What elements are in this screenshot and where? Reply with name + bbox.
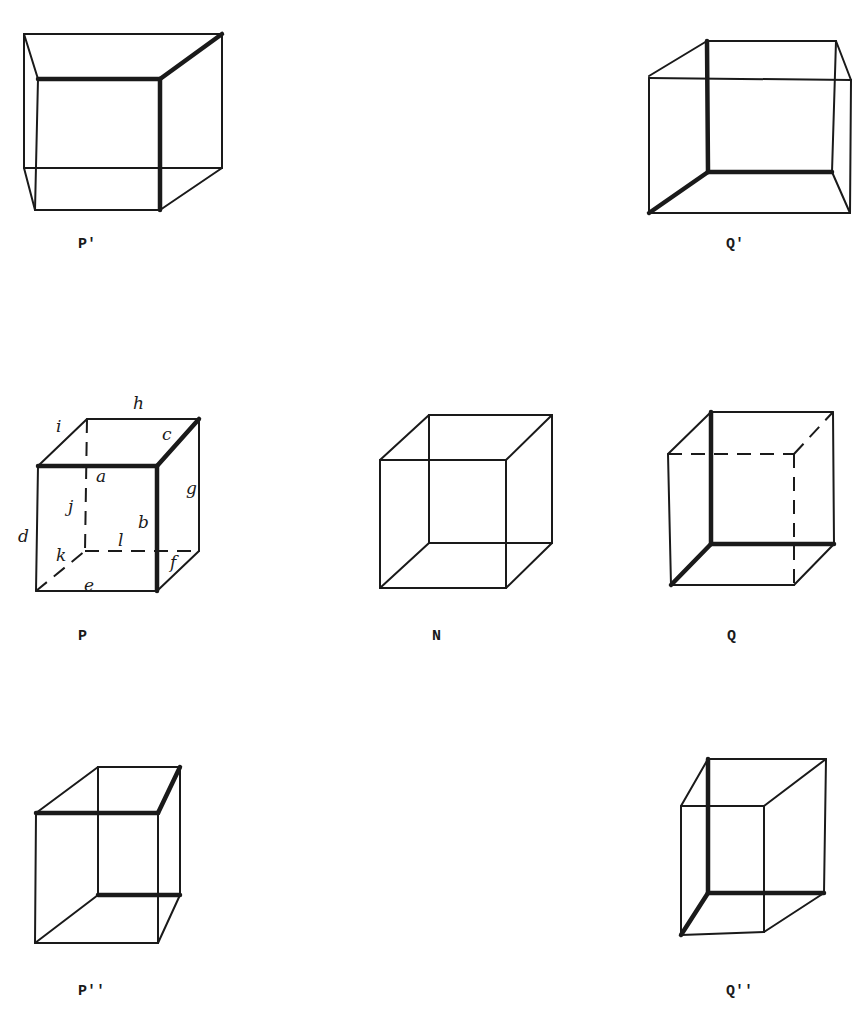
edge-label-c: c (162, 424, 172, 444)
figure-canvas (0, 0, 866, 1033)
caption-q-prime: Q' (726, 236, 744, 253)
caption-p: P (78, 628, 87, 645)
caption-n: N (432, 628, 441, 645)
edge-label-g: g (186, 478, 197, 498)
caption-q: Q (727, 628, 736, 645)
cube-n (380, 415, 552, 588)
caption-q-double-prime: Q'' (726, 983, 753, 1000)
cube-p-prime (24, 34, 222, 210)
edge-label-e: e (84, 575, 94, 595)
edge-label-f: f (170, 552, 176, 572)
cube-p-double-prime (35, 767, 180, 943)
caption-p-double-prime: P'' (78, 983, 105, 1000)
edge-label-k: k (56, 545, 66, 565)
edge-label-j: j (68, 496, 73, 516)
cube-q-double-prime (681, 759, 826, 935)
cube-q-prime (649, 41, 851, 213)
edge-label-h: h (133, 393, 144, 413)
caption-p-prime: P' (78, 236, 96, 253)
edge-label-a: a (96, 466, 106, 486)
edge-label-i: i (56, 416, 61, 436)
edge-label-l: l (118, 530, 123, 550)
cube-q (668, 412, 834, 585)
edge-label-d: d (18, 526, 29, 546)
edge-label-b: b (138, 512, 149, 532)
